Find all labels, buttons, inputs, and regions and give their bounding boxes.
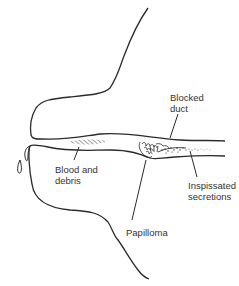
label-blocked-duct: Blocked duct xyxy=(170,92,204,114)
label-papilloma: Papilloma xyxy=(126,227,168,238)
label-inspissated-secretions: Inspissated secretions xyxy=(188,180,236,202)
leader-inspissated xyxy=(190,151,197,177)
breast-duct-diagram xyxy=(0,0,239,286)
leader-papilloma xyxy=(132,160,146,220)
label-blood-and-debris: Blood and debris xyxy=(55,164,98,186)
leader-blood-debris xyxy=(74,147,79,160)
blood-debris-area xyxy=(68,140,108,145)
discharge-drop-2 xyxy=(18,160,22,173)
breast-outline-upper xyxy=(31,8,225,141)
leader-blocked-duct xyxy=(170,114,178,138)
